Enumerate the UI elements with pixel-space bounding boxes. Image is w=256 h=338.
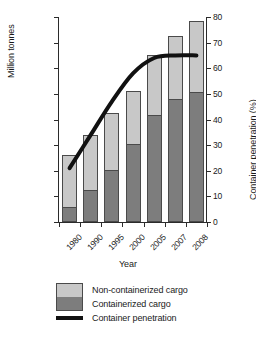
x-tick-mark — [80, 223, 81, 227]
x-tick-label: 1995 — [106, 232, 126, 252]
x-tick-mark — [207, 223, 208, 227]
legend-item-containerized: Containerized cargo — [56, 297, 246, 311]
chart-legend: Non-containerized cargo Containerized ca… — [56, 283, 246, 324]
y2-tick-mark — [207, 68, 211, 69]
x-tick-mark — [144, 223, 145, 227]
container-penetration-line — [58, 17, 207, 223]
x-tick-label: 2007 — [169, 232, 189, 252]
y2-tick-mark — [207, 171, 211, 172]
chart-figure: Million tonnes Container penetration (%)… — [0, 0, 256, 338]
y2-tick-label: 10 — [213, 192, 222, 201]
y-axis-title: Million tonnes — [6, 24, 16, 78]
legend-item-penetration: Container penetration — [56, 311, 246, 324]
x-tick-label: 1980 — [64, 232, 84, 252]
legend-item-non-containerized: Non-containerized cargo — [56, 283, 246, 297]
x-tick-label: 2005 — [148, 232, 168, 252]
x-tick-mark — [186, 223, 187, 227]
x-tick-mark — [165, 223, 166, 227]
y2-tick-label: 30 — [213, 141, 222, 150]
y2-tick-mark — [207, 196, 211, 197]
y2-tick-mark — [207, 145, 211, 146]
legend-swatch-light-icon — [56, 283, 83, 297]
x-tick-mark — [101, 223, 102, 227]
y2-tick-label: 20 — [213, 167, 222, 176]
legend-swatch-dark-icon — [56, 297, 83, 311]
legend-label: Container penetration — [92, 313, 176, 323]
y2-tick-mark — [207, 94, 211, 95]
legend-label: Non-containerized cargo — [92, 285, 188, 295]
legend-line-swatch-icon — [56, 316, 83, 320]
x-tick-label: 2008 — [190, 232, 210, 252]
y2-tick-label: 60 — [213, 64, 222, 73]
plot-area: 02004006008001,0001,2001,4001,600 010203… — [58, 17, 206, 222]
y2-tick-label: 70 — [213, 39, 222, 48]
y2-tick-label: 40 — [213, 116, 222, 125]
y2-tick-mark — [207, 43, 211, 44]
x-axis-title: Year — [0, 259, 256, 269]
y2-tick-label: 80 — [213, 13, 222, 22]
x-tick-label: 1990 — [85, 232, 105, 252]
y2-tick-label: 50 — [213, 90, 222, 99]
x-tick-label: 2000 — [127, 232, 147, 252]
y2-tick-mark — [207, 120, 211, 121]
x-tick-mark — [59, 223, 60, 227]
y2-axis-title: Container penetration (%) — [248, 99, 256, 200]
x-tick-mark — [122, 223, 123, 227]
legend-label: Containerized cargo — [92, 299, 171, 309]
y2-tick-label: 0 — [213, 218, 218, 227]
y2-tick-mark — [207, 17, 211, 18]
